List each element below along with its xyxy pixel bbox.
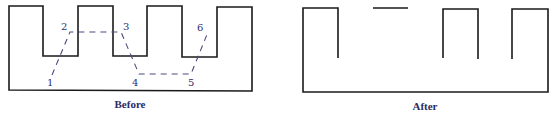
point-label-4: 4 [132,77,138,88]
before-outline [9,6,252,91]
point-label-1: 1 [47,77,53,88]
after-caption: After [385,100,465,112]
before-cut-path [52,32,208,75]
after-main-outline [303,8,548,92]
point-label-6: 6 [197,22,203,33]
after-panel [303,8,548,92]
before-after-diagram: 1 2 3 4 5 6 [0,0,549,127]
before-panel: 1 2 3 4 5 6 [9,6,252,91]
point-label-5: 5 [188,77,194,88]
point-label-2: 2 [61,21,67,32]
after-middle-tooth [443,9,478,59]
before-caption: Before [90,98,170,110]
point-label-3: 3 [123,21,129,32]
